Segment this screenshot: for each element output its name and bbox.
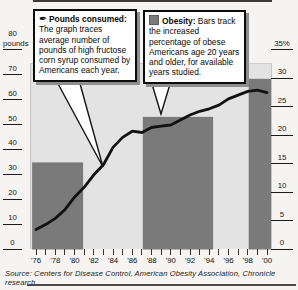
x-axis-tick-1985	[122, 249, 123, 255]
y-axis-left-label-50: 50	[3, 114, 22, 126]
x-axis-year-label-1980: '80	[65, 256, 85, 265]
y-axis-right-label-35: 35%	[271, 39, 293, 51]
y-axis-right-label-20: 20	[271, 124, 293, 136]
x-axis-tick-1986	[132, 249, 133, 255]
x-axis-tick-1983	[103, 249, 104, 255]
x-axis-tick-1987	[141, 249, 142, 255]
callout-obesity-title: Obesity:	[162, 16, 196, 26]
y-axis-left-label-10: 10	[3, 213, 22, 225]
callout-pounds-pointer	[56, 80, 103, 167]
x-axis-tick-1981	[84, 249, 85, 255]
x-axis-tick-1990	[170, 249, 171, 255]
x-axis-year-label-1996: '96	[219, 256, 239, 265]
x-axis-year-label-1976: '76	[26, 256, 46, 265]
x-axis-tick-1988	[151, 249, 152, 255]
x-axis-year-label-1988: '88	[142, 256, 162, 265]
x-axis-year-label-1978: '78	[45, 256, 65, 265]
infographic: ✒Pounds consumed: The graph traces avera…	[0, 0, 298, 290]
x-axis-tick-2000	[267, 249, 268, 255]
y-axis-right-label-0: 0	[271, 238, 293, 250]
y-axis-right-label-10: 10	[271, 181, 293, 193]
x-axis-year-label-1986: '86	[122, 256, 142, 265]
x-axis-year-label-2000: '00	[257, 256, 277, 265]
callout-pounds-consumed: ✒Pounds consumed: The graph traces avera…	[33, 9, 137, 82]
bottom-divider	[27, 284, 296, 286]
y-axis-right-label-15: 15	[271, 153, 293, 165]
x-axis-tick-1980	[74, 249, 75, 255]
x-axis-tick-1994	[209, 249, 210, 255]
x-axis-tick-1992	[190, 249, 191, 255]
x-axis-tick-1984	[113, 249, 114, 255]
x-axis-year-label-1984: '84	[103, 256, 123, 265]
obesity-bar-1999-2000	[249, 79, 271, 250]
y-axis-left-label-30: 30	[3, 163, 22, 175]
x-axis-tick-1996	[228, 249, 229, 255]
y-axis-left-label-20: 20	[3, 188, 22, 200]
obesity-bar-1988-94	[143, 117, 213, 250]
y-axis-left-label-40: 40	[3, 138, 22, 150]
x-axis-tick-1978	[55, 249, 56, 255]
x-axis-year-label-1998: '98	[238, 256, 258, 265]
x-axis-tick-1989	[161, 249, 162, 255]
x-axis-tick-1977	[45, 249, 46, 255]
y-axis-right-label-30: 30	[271, 67, 293, 79]
x-axis-year-label-1990: '90	[161, 256, 181, 265]
x-axis-tick-1979	[64, 249, 65, 255]
y-axis-left-label-80: 80pounds	[3, 29, 22, 50]
obesity-bar-1976-80	[32, 162, 83, 249]
y-axis-right-label-5: 5	[271, 210, 293, 222]
y-axis-left-label-60: 60	[3, 89, 22, 101]
callout-pounds-title: Pounds consumed:	[49, 14, 127, 24]
y-axis-right-label-25: 25	[271, 96, 293, 108]
callout-pounds-body: The graph traces average number of pound…	[39, 24, 130, 75]
y-axis-left-label-0: 0	[3, 238, 22, 250]
callout-obesity: Obesity: Bars track the increased percen…	[143, 10, 246, 84]
y-axis-left-label-70: 70	[3, 64, 22, 76]
x-axis-tick-1995	[218, 249, 219, 255]
bar-swatch-icon	[149, 15, 159, 25]
x-axis-tick-1991	[180, 249, 181, 255]
x-axis-tick-1982	[93, 249, 94, 255]
x-axis-year-label-1982: '82	[84, 256, 104, 265]
pen-icon: ✒	[39, 13, 47, 24]
x-axis-tick-1998	[247, 249, 248, 255]
x-axis-tick-1997	[238, 249, 239, 255]
x-axis-tick-1976	[36, 249, 37, 255]
x-axis-year-label-1992: '92	[180, 256, 200, 265]
x-axis-year-label-1994: '94	[199, 256, 219, 265]
x-axis-tick-1999	[257, 249, 258, 255]
x-axis-tick-1993	[199, 249, 200, 255]
